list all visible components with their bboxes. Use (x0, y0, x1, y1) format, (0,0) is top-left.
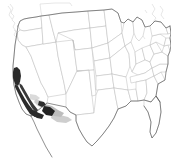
map-container: United States distribution map (0, 0, 171, 164)
range-primary-south-coast (32, 110, 44, 119)
state-boundaries-layer (13, 9, 171, 146)
state-OK (96, 74, 114, 90)
us-distribution-map: United States distribution map (0, 0, 171, 164)
state-ND (88, 10, 106, 28)
state-FL (144, 96, 161, 138)
state-MI (133, 17, 145, 41)
state-KS (94, 58, 112, 76)
